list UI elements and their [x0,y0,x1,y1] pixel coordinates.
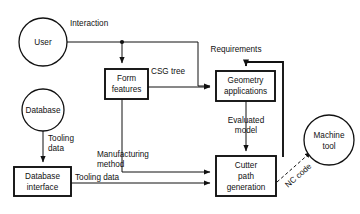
flow-diagram: User Database Database interface Form fe… [0,0,360,214]
edge-label-requirements: Requirements [211,45,262,54]
edge-label-nc-code: NC code [283,162,313,190]
edge-label-interaction: Interaction [70,19,109,28]
node-machine-tool[interactable] [304,115,354,165]
edge-label-evaluated-model-line2: model [235,126,257,135]
node-database-interface-label-line2: interface [27,183,59,192]
junction-dot-interaction [120,40,124,44]
node-cutter-path-generation-label-line2: path [238,172,254,181]
node-user-label: User [34,38,52,47]
edge-label-tooling-data-flat: Tooling data [75,173,120,182]
edge-label-csg-tree: CSG tree [151,67,186,76]
node-form-features-label-line2: features [112,85,142,94]
node-geometry-applications-label-line1: Geometry [228,76,265,85]
edge-label-manufacturing-method-line2: method [97,160,125,169]
edge-label-manufacturing-method-line1: Manufacturing [97,150,149,159]
node-cutter-path-generation-label-line3: generation [227,183,266,192]
edge-manufacturing-method [122,99,210,172]
edge-label-tooling-data-line1: Tooling [48,134,74,143]
node-machine-tool-label-line2: tool [322,142,335,151]
node-cutter-path-generation-label-line1: Cutter [235,161,258,170]
diagram-canvas: User Database Database interface Form fe… [0,0,360,214]
node-machine-tool-label-line1: Machine [314,131,345,140]
node-database-interface-label-line1: Database [25,172,60,181]
edge-label-tooling-data-line2: data [48,144,64,153]
node-geometry-applications-label-line2: applications [224,87,267,96]
node-form-features-label-line1: Form [117,74,136,83]
edge-label-evaluated-model-line1: Evaluated [228,116,265,125]
node-database-label: Database [25,106,60,115]
